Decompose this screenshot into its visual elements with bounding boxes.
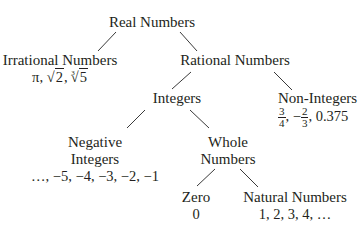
node-natural-numbers: Natural Numbers 1, 2, 3, 4, …	[240, 189, 350, 223]
separator: ,	[39, 69, 46, 85]
edge-whole-zero	[197, 169, 215, 186]
node-non-integers: Non-Integers 34, −23, 0.375	[278, 90, 362, 129]
node-integers: Integers	[144, 90, 210, 107]
node-label: Real Numbers	[109, 14, 195, 30]
separator: , −	[286, 108, 301, 124]
node-label-line1: Negative	[10, 134, 180, 151]
denominator: 4	[278, 118, 286, 129]
node-examples: 0	[176, 206, 216, 223]
edge-rational-integers	[172, 72, 191, 89]
node-label-line2: Integers	[10, 151, 180, 168]
edge-real-irrational	[98, 32, 116, 51]
node-examples: …, −5, −4, −3, −2, −1	[10, 168, 180, 185]
node-irrational-numbers: Irrational Numbers π, √2, 3√5	[0, 52, 120, 89]
radicand: 2	[55, 68, 64, 85]
node-label: Integers	[153, 90, 201, 106]
node-label: Zero	[176, 189, 216, 206]
root-index: 3	[71, 69, 75, 77]
node-label: Rational Numbers	[180, 52, 290, 68]
node-label-line2: Numbers	[196, 151, 260, 168]
decimal-example: , 0.375	[308, 108, 348, 124]
edge-integers-negative	[127, 110, 145, 128]
radicand: 5	[79, 68, 88, 85]
edge-rational-nonintegers	[274, 72, 292, 90]
edge-real-rational	[180, 32, 197, 51]
fraction-3-4: 34	[278, 106, 286, 129]
node-examples: 1, 2, 3, 4, …	[240, 206, 350, 223]
node-examples: π, √2, 3√5	[0, 69, 120, 89]
sqrt-icon: √2	[47, 69, 64, 86]
edge-integers-whole	[190, 110, 209, 128]
node-label: Natural Numbers	[240, 189, 350, 206]
node-whole-numbers: Whole Numbers	[196, 134, 260, 168]
node-negative-integers: Negative Integers …, −5, −4, −3, −2, −1	[10, 134, 180, 185]
edge-whole-natural	[240, 169, 258, 187]
node-rational-numbers: Rational Numbers	[180, 52, 290, 69]
node-label: Irrational Numbers	[0, 52, 120, 69]
node-label-line1: Whole	[196, 134, 260, 151]
node-examples: 34, −23, 0.375	[278, 106, 362, 129]
cube-root-icon: 3√5	[71, 69, 88, 89]
node-real-numbers: Real Numbers	[98, 14, 206, 31]
node-zero: Zero 0	[176, 189, 216, 223]
node-label: Non-Integers	[278, 90, 362, 107]
